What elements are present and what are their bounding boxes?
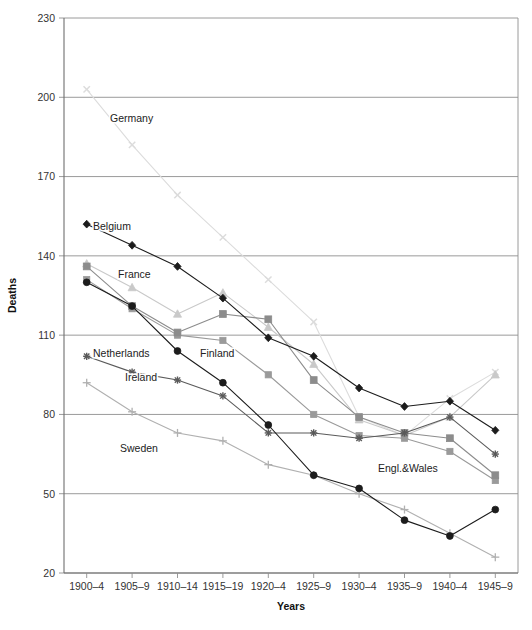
line-chart: 2050801101401702002301900–41905–91910–14… <box>0 0 532 630</box>
series-label-belgium: Belgium <box>93 220 131 232</box>
data-point-square <box>311 411 317 417</box>
x-tick-label: 1910–14 <box>157 580 198 592</box>
series-label-sweden: Sweden <box>120 442 158 454</box>
data-point-circle <box>265 422 272 429</box>
data-point-diamond <box>310 352 317 360</box>
data-point-circle <box>492 506 499 513</box>
series-belgium <box>83 220 499 434</box>
gridlines: 205080110140170200230 <box>37 12 518 579</box>
data-point-diamond <box>356 384 363 392</box>
data-point-diamond <box>174 263 181 271</box>
series-label-germany: Germany <box>110 112 154 124</box>
y-tick-label: 140 <box>37 250 55 262</box>
x-tick-label: 1920–4 <box>251 580 286 592</box>
series-label-finland: Finland <box>200 347 235 359</box>
data-point-triangle <box>174 310 182 317</box>
y-tick-label: 20 <box>43 567 55 579</box>
x-tick-label: 1930–4 <box>342 580 377 592</box>
data-point-square <box>447 448 453 454</box>
data-point-circle <box>356 485 363 492</box>
data-point-square <box>220 337 226 343</box>
y-axis-title: Deaths <box>6 278 18 313</box>
series-line <box>87 282 496 536</box>
data-point-triangle <box>264 323 272 330</box>
y-tick-label: 50 <box>43 488 55 500</box>
data-point-triangle <box>128 283 136 290</box>
x-tick-label: 1945–9 <box>478 580 513 592</box>
x-tick-label: 1925–9 <box>296 580 331 592</box>
series-line <box>87 224 496 430</box>
data-point-circle <box>401 517 408 524</box>
data-point-square <box>265 372 271 378</box>
data-point-square <box>174 329 181 336</box>
data-point-square <box>447 435 454 442</box>
data-point-square <box>310 377 317 384</box>
x-tick-label: 1935–9 <box>387 580 422 592</box>
x-axis-title: Years <box>277 600 305 612</box>
series-line <box>87 89 496 435</box>
y-tick-label: 170 <box>37 170 55 182</box>
x-tick-label: 1940–4 <box>432 580 467 592</box>
data-point-square <box>83 263 90 270</box>
x-axis: 1900–41905–91910–141915–191920–41925–919… <box>69 573 513 592</box>
data-point-square <box>220 311 227 318</box>
data-point-diamond <box>129 241 136 249</box>
data-point-triangle <box>310 360 318 367</box>
series-label-ireland: Ireland <box>125 371 157 383</box>
series-label-engl-wales: Engl.&Wales <box>378 462 438 474</box>
series-germany <box>84 86 499 439</box>
y-tick-label: 80 <box>43 408 55 420</box>
data-point-diamond <box>492 426 499 434</box>
data-point-diamond <box>83 220 90 228</box>
data-point-square <box>356 414 363 421</box>
series-label-netherlands: Netherlands <box>93 347 150 359</box>
x-tick-label: 1900–4 <box>69 580 104 592</box>
data-point-diamond <box>446 397 453 405</box>
chart-container: 2050801101401702002301900–41905–91910–14… <box>0 0 532 630</box>
data-point-square <box>492 472 499 479</box>
data-point-circle <box>447 533 454 540</box>
data-point-circle <box>83 279 90 286</box>
data-point-circle <box>174 348 181 355</box>
data-point-circle <box>310 472 317 479</box>
y-tick-label: 200 <box>37 91 55 103</box>
series-annotations: GermanyBelgiumFranceNetherlandsFinlandIr… <box>93 112 438 474</box>
data-point-circle <box>220 379 227 386</box>
x-tick-label: 1905–9 <box>115 580 150 592</box>
data-point-diamond <box>401 403 408 411</box>
y-tick-label: 230 <box>37 12 55 24</box>
data-point-circle <box>129 303 136 310</box>
y-tick-label: 110 <box>38 329 55 341</box>
series-label-france: France <box>118 268 151 280</box>
x-tick-label: 1915–19 <box>202 580 243 592</box>
data-point-square <box>265 316 272 323</box>
